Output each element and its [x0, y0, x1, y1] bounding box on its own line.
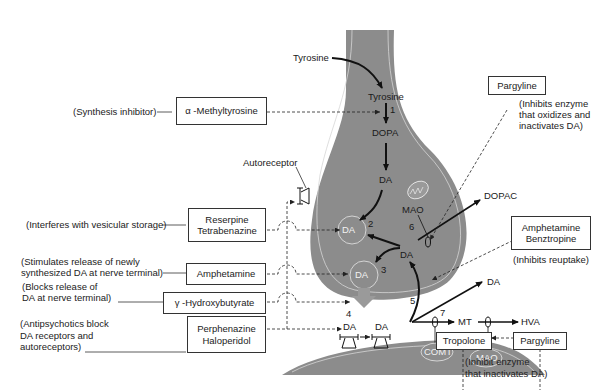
presynaptic-terminal: [310, 30, 466, 300]
inhibit-enzyme-note-line1: (Inhibit enzyme: [465, 356, 529, 367]
da-cytoplasm-label: DA: [379, 174, 392, 185]
step-7: 7: [440, 307, 445, 318]
da-reuptake-label: DA: [400, 249, 413, 260]
vesicular-storage-note: (Interferes with vesicular storage): [26, 219, 166, 230]
step-6: 6: [409, 221, 414, 232]
tyrosine-inside-label: Tyrosine: [368, 91, 404, 102]
amphetamine-release-note-line1: (Stimulates release of newly: [21, 256, 140, 267]
antipsychotics-note-line1: (Antipsychotics block: [20, 318, 109, 329]
reserpine-tetrabenazine-box: ReserpineTetrabenazine: [188, 208, 266, 242]
amphetamine-release-note-line2: synthesized DA at nerve terminal): [21, 267, 163, 278]
hydroxybutyrate-box: γ -Hydroxybutyrate: [163, 292, 266, 314]
da-vesicle-release-label: DA: [355, 269, 368, 280]
amphetamine-benztropine-box: AmphetamineBenztropine: [511, 216, 591, 250]
pargyline-top-note-line3: inactivates DA): [519, 120, 583, 131]
tyrosine-outside-label: Tyrosine: [293, 52, 329, 63]
tropolone-box: Tropolone: [436, 332, 492, 350]
pargyline-top-note-line2: that oxidizes and: [519, 109, 590, 120]
hva-label: HVA: [521, 316, 540, 327]
pargyline-bottom-box: Pargyline: [513, 332, 567, 350]
pargyline-top-note-line1: (Inhibits enzyme: [519, 98, 588, 109]
step-5: 5: [410, 295, 415, 306]
da-receptor-left-label: DA: [343, 321, 356, 332]
antipsychotics-note-line2: DA receptors and: [20, 330, 93, 341]
reuptake-note: (Inhibits reuptake): [513, 254, 589, 265]
step-4: 4: [346, 308, 351, 319]
hydroxybutyrate-note-line2: DA at nerve terminal): [22, 292, 111, 303]
da-receptor-right-label: DA: [375, 321, 388, 332]
da-released-label: DA: [487, 276, 500, 287]
step-1: 1: [390, 104, 395, 115]
amphetamine-box: Amphetamine: [186, 263, 266, 285]
dopa-label: DOPA: [372, 127, 398, 138]
hydroxybutyrate-note-line1: (Blocks release of: [22, 281, 98, 292]
pargyline-top-box: Pargyline: [488, 76, 546, 95]
antipsychotics-note-line3: autoreceptors): [20, 341, 81, 352]
inhibit-enzyme-note-line2: that inactivates DA): [465, 368, 547, 379]
step-3: 3: [381, 264, 386, 275]
methyltyrosine-box: α -Methyltyrosine: [176, 97, 267, 125]
step-2: 2: [368, 218, 373, 229]
perphenazine-haloperidol-box: PerphenazineHaloperidol: [187, 316, 266, 353]
synthesis-inhibitor-note: (Synthesis inhibitor): [73, 106, 156, 117]
mt-label: MT: [458, 316, 472, 327]
dopac-label: DOPAC: [484, 190, 517, 201]
mao-mito-label: MAO: [402, 204, 424, 215]
da-vesicle-storage-label: DA: [342, 224, 355, 235]
autoreceptor-label: Autoreceptor: [243, 157, 297, 168]
